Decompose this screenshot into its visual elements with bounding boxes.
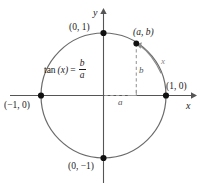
point-dot-bottom: [100, 155, 106, 161]
right-angle-mark: [131, 90, 137, 96]
unit-circle-graphic: [0, 0, 201, 192]
tangent-formula: tan (x) = b a: [44, 59, 86, 80]
segment-label-a: a: [118, 98, 123, 107]
unit-circle-figure: y x (0, 1) (1, 0) (0, −1) (−1, 0) (a, b)…: [0, 0, 201, 192]
point-dot-top: [100, 30, 106, 36]
x-axis-label: x: [186, 101, 190, 111]
arc-label-x: x: [161, 57, 165, 66]
point-label-left: (−1, 0): [4, 101, 30, 111]
y-axis-arrowhead: [100, 8, 106, 14]
point-label-ab: (a, b): [133, 28, 154, 38]
point-label-bottom: (0, −1): [68, 162, 94, 172]
formula-denominator: a: [79, 70, 86, 80]
point-dot-left: [38, 92, 44, 98]
point-dot-ab: [133, 41, 139, 47]
point-label-top: (0, 1): [69, 23, 90, 33]
point-label-right: (1, 0): [166, 82, 187, 92]
formula-function-name: tan: [44, 65, 56, 75]
point-dot-right: [163, 92, 169, 98]
x-axis-arrowhead: [191, 92, 197, 98]
formula-argument: (x): [58, 65, 69, 75]
formula-numerator: b: [79, 59, 86, 69]
y-axis-label: y: [93, 8, 97, 18]
formula-equals: =: [70, 65, 75, 75]
formula-fraction: b a: [79, 59, 86, 80]
segment-label-b: b: [139, 66, 144, 75]
